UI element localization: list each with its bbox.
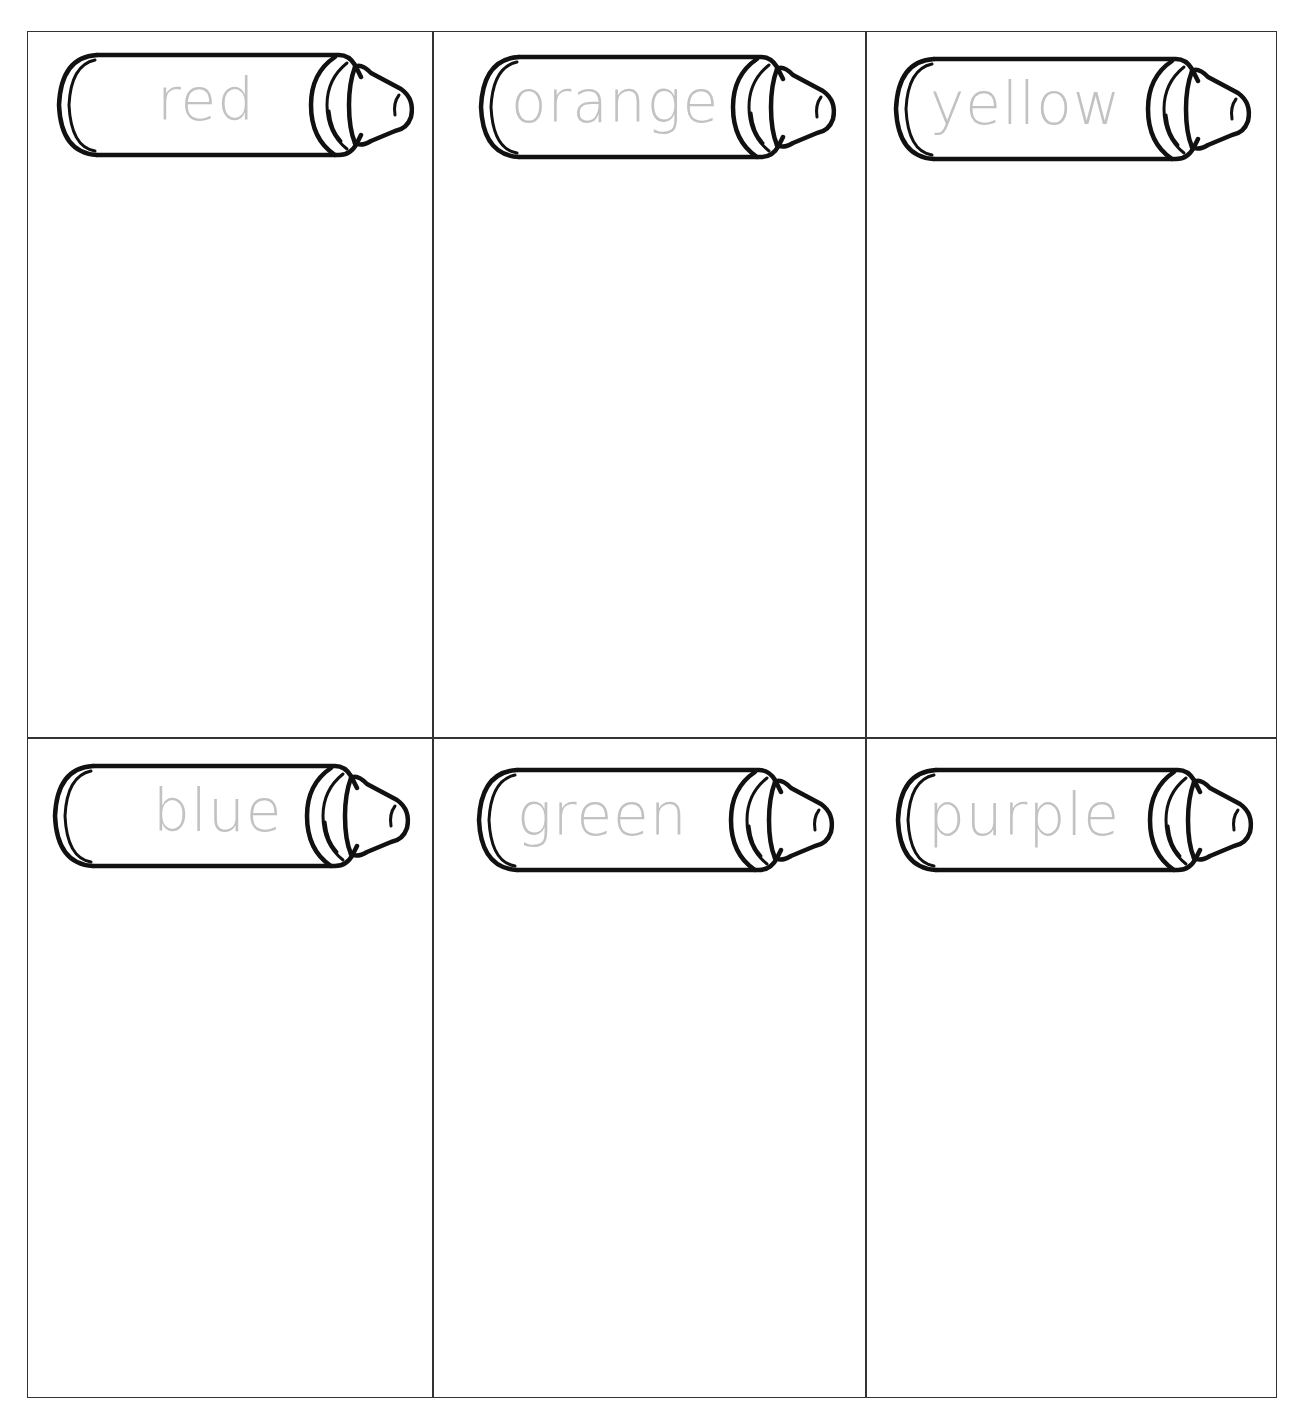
crayon-label: purple <box>928 780 1120 850</box>
crayon-label: yellow <box>930 69 1121 139</box>
crayon-label: red <box>157 65 255 135</box>
worksheet-cell-orange: orange <box>433 31 865 737</box>
crayon-drawing: blue <box>45 754 415 874</box>
worksheet-cell-blue: blue <box>27 738 432 1398</box>
crayon-drawing: purple <box>888 758 1258 878</box>
worksheet-cell-red: red <box>27 31 432 737</box>
crayon-label: blue <box>153 776 282 846</box>
crayon-label: orange <box>511 67 719 137</box>
crayon-drawing: red <box>49 43 419 163</box>
crayon-label: green <box>517 780 688 850</box>
crayon-drawing: orange <box>471 45 841 165</box>
crayon-drawing: green <box>469 758 839 878</box>
worksheet-cell-green: green <box>433 738 865 1398</box>
worksheet-cell-purple: purple <box>866 738 1277 1398</box>
crayon-drawing: yellow <box>886 47 1256 167</box>
worksheet-cell-yellow: yellow <box>866 31 1277 737</box>
